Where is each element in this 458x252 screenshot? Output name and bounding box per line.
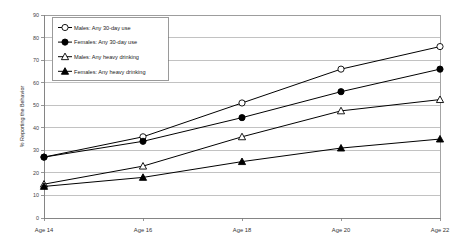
data-point <box>41 154 47 160</box>
y-tick-label: 10 <box>33 192 39 198</box>
legend-label: Males: Any heavy drinking <box>74 54 139 60</box>
chart-canvas: 0102030405060708090% Reporting the Behav… <box>0 0 458 252</box>
x-tick-label: Age 22 <box>431 227 449 233</box>
y-tick-label: 0 <box>36 215 39 221</box>
legend-label: Males: Any 30-day use <box>74 25 131 31</box>
y-tick-label: 90 <box>33 12 39 18</box>
x-tick-label: Age 16 <box>134 227 152 233</box>
data-point <box>239 115 245 121</box>
x-tick-label: Age 14 <box>35 227 54 233</box>
x-tick-label: Age 20 <box>332 227 350 233</box>
x-axis: Age 14Age 16Age 18Age 20Age 22 <box>35 218 449 233</box>
legend: Males: Any 30-day useFemales: Any 30-day… <box>52 17 168 80</box>
legend-label: Females: Any heavy drinking <box>74 69 146 75</box>
y-tick-label: 80 <box>33 35 39 41</box>
y-tick-label: 40 <box>33 125 39 131</box>
legend-marker <box>62 24 68 30</box>
data-point <box>437 66 443 72</box>
y-tick-label: 50 <box>33 102 39 108</box>
y-tick-label: 60 <box>33 80 39 86</box>
y-axis-title: % Reporting the Behavior <box>19 86 25 148</box>
legend-label: Females: Any 30-day use <box>74 39 137 45</box>
data-point <box>338 89 344 95</box>
x-tick-label: Age 18 <box>233 227 251 233</box>
data-point <box>437 43 443 49</box>
data-point <box>140 138 146 144</box>
y-tick-label: 20 <box>33 170 39 176</box>
y-tick-label: 30 <box>33 147 39 153</box>
data-point <box>239 100 245 106</box>
data-point <box>338 66 344 72</box>
y-tick-label: 70 <box>33 57 39 63</box>
legend-marker <box>62 39 68 45</box>
line-chart: 0102030405060708090% Reporting the Behav… <box>0 0 458 252</box>
